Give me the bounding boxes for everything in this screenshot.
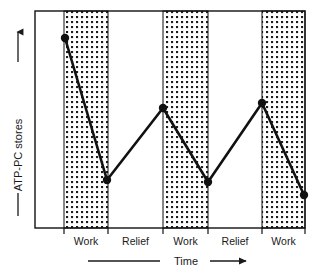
band-label-relief-2: Relief: [222, 235, 249, 247]
y-axis-title-group: ATP-PC stores: [12, 32, 24, 216]
data-point-marker: [103, 176, 111, 184]
x-axis-band-labels: Work Relief Work Relief Work: [74, 235, 297, 247]
band-label-relief-1: Relief: [122, 235, 149, 247]
data-point-marker: [204, 178, 212, 186]
x-axis-title-group: Time: [88, 255, 246, 267]
data-point-marker: [61, 34, 69, 42]
data-point-marker: [258, 99, 266, 107]
x-axis-title: Time: [174, 255, 198, 267]
band-work-1: [64, 11, 108, 228]
data-point-marker: [300, 191, 308, 199]
data-point-marker: [159, 104, 167, 112]
y-axis-title: ATP-PC stores: [12, 118, 24, 191]
band-label-work-3: Work: [271, 235, 296, 247]
band-label-work-2: Work: [173, 235, 198, 247]
x-axis-ticks: [64, 228, 305, 234]
chart-canvas: Work Relief Work Relief Work Time ATP-PC…: [0, 0, 317, 274]
chart-figure: Work Relief Work Relief Work Time ATP-PC…: [0, 0, 317, 274]
band-label-work-1: Work: [74, 235, 99, 247]
